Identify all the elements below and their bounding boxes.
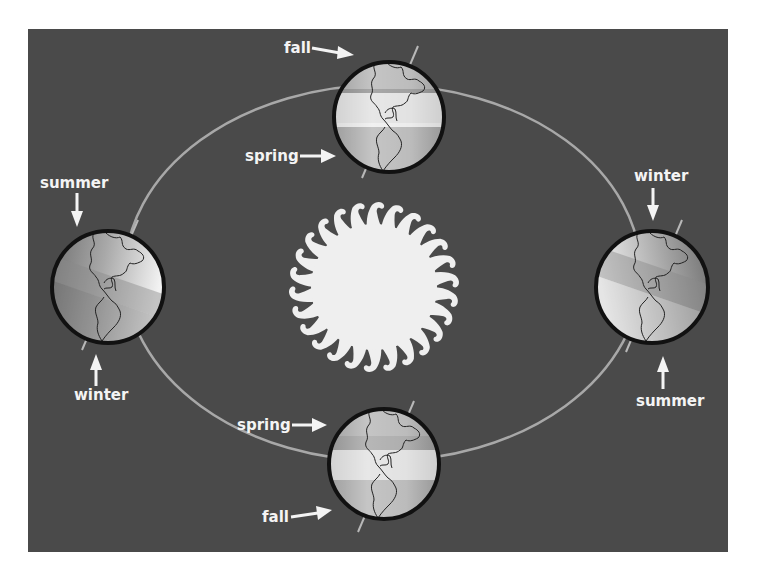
label-bottom-upper: spring xyxy=(237,416,327,434)
season-label: fall xyxy=(262,508,289,526)
season-label: spring xyxy=(237,416,291,434)
season-label: fall xyxy=(284,39,311,57)
season-label: summer xyxy=(636,392,705,410)
season-label: spring xyxy=(245,147,299,165)
season-label: winter xyxy=(634,167,689,185)
seasons-diagram: fall spring summer winter winter xyxy=(0,0,758,581)
sun-core xyxy=(311,224,437,350)
season-label: winter xyxy=(74,386,129,404)
label-top-lower: spring xyxy=(245,147,336,165)
season-label: summer xyxy=(40,174,109,192)
